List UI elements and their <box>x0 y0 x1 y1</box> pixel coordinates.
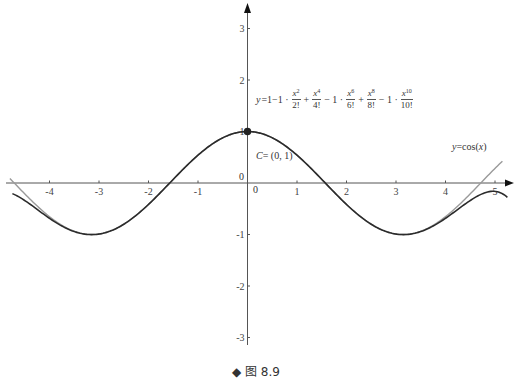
x-tick-label: -2 <box>144 186 152 197</box>
x-tick-label: 3 <box>394 186 399 197</box>
cos-label-func: =cos( <box>456 141 478 152</box>
formula-lhs-var: y <box>256 94 260 105</box>
formula-term-2: x22! <box>292 88 301 111</box>
x-tick-label: 4 <box>443 186 448 197</box>
term-den: 8! <box>368 100 376 111</box>
x-tick-label: 1 <box>295 186 300 197</box>
cos-label-close: ) <box>483 141 486 152</box>
taylor-formula-label: y =1−1 · x22! + x44! − 1 · x66! + x88! −… <box>256 88 415 111</box>
x-axis-arrow-icon <box>505 180 514 187</box>
y-tick-label: 3 <box>240 23 245 34</box>
x-tick-label: -4 <box>45 186 53 197</box>
formula-term-4: x44! <box>312 88 321 111</box>
formula-term-6: x66! <box>346 88 355 111</box>
plot-canvas: -4-3-2-112345-3-2-1123 <box>0 0 518 381</box>
point-c-coords: = (0, 1) <box>263 150 293 161</box>
formula-op: + <box>358 94 364 105</box>
y-tick-label: -1 <box>236 229 244 240</box>
term-exp: 6 <box>351 88 354 94</box>
term-den: 4! <box>313 100 321 111</box>
point-c-marker <box>244 128 252 136</box>
term-var: x <box>293 88 297 98</box>
point-c-label: C= (0, 1) <box>256 150 292 161</box>
origin-label-right: 0 <box>253 184 258 195</box>
formula-lhs: =1−1 · <box>261 94 288 105</box>
x-tick-label: -1 <box>194 186 202 197</box>
point-c-name: C <box>256 150 263 161</box>
y-tick-label: -3 <box>236 332 244 343</box>
figure-caption: ◆ 图 8.9 <box>232 362 280 379</box>
formula-op: + <box>304 94 310 105</box>
term-exp: 10 <box>406 88 412 94</box>
formula-term-8: x88! <box>367 88 376 111</box>
formula-op: − 1 · <box>379 94 398 105</box>
x-tick-label: 2 <box>344 186 349 197</box>
x-tick-label: -3 <box>95 186 103 197</box>
y-tick-label: 2 <box>240 75 245 86</box>
term-exp: 4 <box>317 88 320 94</box>
term-den: 6! <box>347 100 355 111</box>
formula-term-10: x1010! <box>401 88 413 111</box>
cos-curve-label: y=cos(x) <box>452 141 487 152</box>
y-tick-label: -2 <box>236 281 244 292</box>
term-exp: 8 <box>372 88 375 94</box>
y-axis-arrow-icon <box>244 3 251 13</box>
formula-op: − 1 · <box>324 94 343 105</box>
term-exp: 2 <box>297 88 300 94</box>
origin-label-left: 0 <box>239 171 244 182</box>
term-den: 2! <box>292 100 300 111</box>
term-den: 10! <box>401 100 413 111</box>
